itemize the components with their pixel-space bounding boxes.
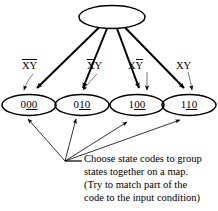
condition-label-2: XY xyxy=(128,60,143,71)
condition-1-x: X xyxy=(87,60,95,71)
root-state-ellipse[interactable] xyxy=(79,6,145,29)
state-code-110: 110 xyxy=(174,99,204,110)
state-code-010: 010 xyxy=(67,99,97,110)
condition-1-y: Y xyxy=(95,60,103,71)
condition-0-y: Y xyxy=(30,60,38,71)
condition-label-1: XY xyxy=(87,60,102,71)
transition-arrow-to-000 xyxy=(37,28,99,89)
caption-line-3: (Try to match part of the xyxy=(84,178,216,191)
label-pointer-000 xyxy=(24,74,33,90)
caption-line-4: code to the input condition) xyxy=(84,191,216,204)
condition-label-3: XY xyxy=(176,60,191,71)
caption-block: Choose state codes to group states toget… xyxy=(84,152,216,204)
diagram-canvas: XY XY XY XY 000 010 100 110 Choose state… xyxy=(0,0,218,211)
state-code-100: 100 xyxy=(122,99,152,110)
state-code-110-underlined: 10 xyxy=(186,98,197,110)
transition-arrow-to-110 xyxy=(125,28,184,89)
condition-2-x: X xyxy=(128,60,136,71)
condition-2-y: Y xyxy=(136,60,144,71)
label-pointer-110 xyxy=(188,72,192,90)
caption-line-1: Choose state codes to group xyxy=(84,152,216,165)
callout-arrow-000 xyxy=(28,119,65,161)
condition-3-x: X xyxy=(176,60,184,71)
caption-line-2: states together on a map. xyxy=(84,165,216,178)
state-code-000-underlined: 00 xyxy=(26,98,37,110)
state-code-100-underlined: 00 xyxy=(134,98,145,110)
condition-3-y: Y xyxy=(184,60,192,71)
state-code-000: 000 xyxy=(14,99,44,110)
state-code-010-underlined: 10 xyxy=(79,98,90,110)
condition-0-x: X xyxy=(22,60,30,71)
condition-label-0: XY xyxy=(22,60,37,71)
